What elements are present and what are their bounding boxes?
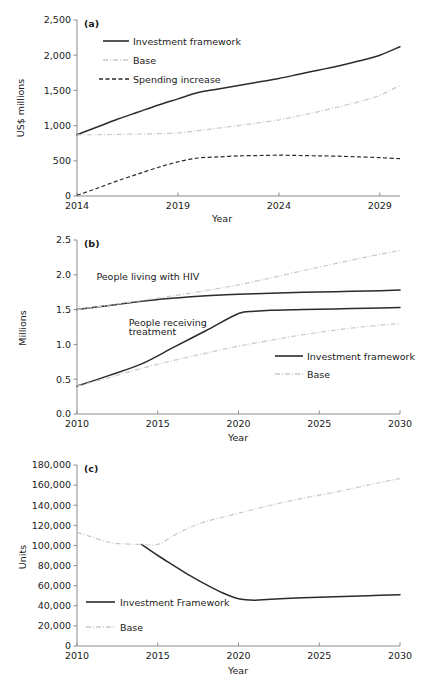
panel-a-y-tick-label: 2,000 — [44, 50, 71, 61]
panel-a-x-tick-label: 2019 — [166, 200, 190, 211]
panel-b-legend: Investment framework Base — [275, 351, 415, 380]
panel-a-y-tick-label: 1,500 — [44, 85, 71, 96]
panel-a-y-tick-label: 1,000 — [44, 120, 71, 131]
series-line — [77, 308, 400, 387]
legend-label-spending-increase[interactable]: Spending increase — [133, 74, 221, 85]
panel-c-x-ticks: 20102015202020252030 — [65, 643, 412, 662]
panel-a-x-tick-label: 2014 — [65, 200, 89, 211]
panel-b-x-axis-title: Year — [227, 432, 248, 443]
panel-a-x-axis-title: Year — [211, 213, 232, 224]
panel-a-x-ticks: 2014201920242029 — [65, 193, 392, 212]
three-panel-line-chart-figure: 05001,0001,5002,0002,500 201420192024202… — [0, 0, 422, 695]
legend-label-base[interactable]: Base — [133, 55, 156, 66]
panel-c-svg: 020,00040,00060,00080,000100,000120,0001… — [0, 455, 422, 695]
panel-b-x-tick-label: 2010 — [65, 418, 89, 429]
panel-b-tag: (b) — [84, 238, 99, 249]
panel-b-x-tick-label: 2025 — [307, 418, 331, 429]
panel-c-x-tick-label: 2010 — [65, 650, 89, 661]
panel-a-x-tick-label: 2029 — [368, 200, 392, 211]
panel-a-tag: (a) — [84, 18, 99, 29]
panel-b-y-ticks: 0.00.51.01.52.02.5 — [56, 234, 77, 419]
panel-b-x-tick-label: 2015 — [146, 418, 170, 429]
legend-label-investment-framework[interactable]: Investment framework — [133, 36, 241, 47]
chart-panel-a: 05001,0001,5002,0002,500 201420192024202… — [0, 0, 422, 232]
panel-c-y-tick-label: 80,000 — [38, 560, 71, 571]
panel-c-x-tick-label: 2030 — [388, 650, 412, 661]
chart-panel-b: 0.00.51.01.52.02.5 20102015202020252030 … — [0, 228, 422, 458]
panel-b-y-axis-title: Millions — [17, 310, 28, 346]
legend-label-base[interactable]: Base — [120, 622, 143, 633]
panel-c-y-ticks: 020,00040,00060,00080,000100,000120,0001… — [32, 459, 77, 651]
series-line — [77, 290, 400, 309]
legend-label-base[interactable]: Base — [307, 369, 330, 380]
panel-c-y-tick-label: 120,000 — [32, 520, 71, 531]
chart-annotation: treatment — [129, 326, 177, 337]
panel-a-y-axis-title: US$ millions — [15, 79, 26, 138]
chart-panel-c: 020,00040,00060,00080,000100,000120,0001… — [0, 455, 422, 695]
series-line — [77, 85, 400, 134]
series-line — [77, 155, 400, 195]
panel-c-legend: Investment Framework Base — [86, 597, 230, 633]
legend-label-investment-framework[interactable]: Investment framework — [307, 351, 415, 362]
panel-c-y-tick-label: 40,000 — [38, 600, 71, 611]
panel-a-legend: Investment framework Base Spending incre… — [99, 36, 241, 85]
panel-c-x-tick-label: 2015 — [146, 650, 170, 661]
panel-a-x-tick-label: 2024 — [267, 200, 291, 211]
panel-c-y-tick-label: 140,000 — [32, 500, 71, 511]
panel-b-y-tick-label: 1.0 — [56, 339, 71, 350]
panel-b-y-tick-label: 2.0 — [56, 269, 71, 280]
panel-b-x-tick-label: 2020 — [226, 418, 250, 429]
legend-label-investment-framework[interactable]: Investment Framework — [120, 597, 230, 608]
panel-a-series-group — [77, 47, 400, 196]
panel-c-x-axis-title: Year — [227, 665, 248, 676]
panel-c-series-group — [77, 479, 400, 601]
panel-a-y-tick-label: 500 — [53, 155, 71, 166]
panel-c-y-tick-label: 100,000 — [32, 540, 71, 551]
series-line — [142, 544, 400, 600]
panel-c-y-tick-label: 160,000 — [32, 479, 71, 490]
panel-b-y-tick-label: 2.5 — [56, 234, 71, 245]
panel-c-x-tick-label: 2025 — [307, 650, 331, 661]
panel-b-y-tick-label: 1.5 — [56, 304, 71, 315]
panel-c-y-axis-title: Units — [17, 545, 28, 569]
panel-b-x-tick-label: 2030 — [388, 418, 412, 429]
panel-b-svg: 0.00.51.01.52.02.5 20102015202020252030 … — [0, 228, 422, 458]
panel-a-svg: 05001,0001,5002,0002,500 201420192024202… — [0, 0, 422, 232]
panel-c-y-tick-label: 60,000 — [38, 580, 71, 591]
series-line — [77, 479, 400, 546]
panel-b-y-tick-label: 0.5 — [56, 374, 71, 385]
panel-a-y-tick-label: 2,500 — [44, 14, 71, 25]
panel-c-y-tick-label: 20,000 — [38, 620, 71, 631]
chart-annotation: People living with HIV — [96, 271, 199, 282]
panel-a-y-ticks: 05001,0001,5002,0002,500 — [44, 14, 77, 201]
panel-c-y-tick-label: 180,000 — [32, 459, 71, 470]
panel-c-tag: (c) — [84, 463, 98, 474]
panel-c-x-tick-label: 2020 — [226, 650, 250, 661]
panel-b-x-ticks: 20102015202020252030 — [65, 411, 412, 430]
